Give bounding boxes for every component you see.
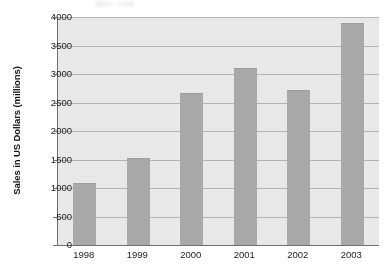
bars-group bbox=[58, 17, 379, 245]
bar-1999 bbox=[127, 158, 150, 245]
bar-chart-figure: Sales in US Dollars (millions) 050010001… bbox=[0, 0, 389, 268]
bar-2003 bbox=[341, 23, 364, 245]
plot-area bbox=[57, 17, 379, 246]
y-tick-mark-1000 bbox=[53, 188, 57, 189]
bar-1998 bbox=[73, 183, 96, 245]
y-tick-mark-0 bbox=[53, 245, 57, 246]
bar-2001 bbox=[234, 68, 257, 245]
y-tick-mark-2500 bbox=[53, 103, 57, 104]
y-axis-title: Sales in US Dollars (millions) bbox=[11, 31, 22, 231]
x-tick-label-2002: 2002 bbox=[271, 249, 325, 260]
y-tick-mark-4000 bbox=[53, 17, 57, 18]
y-tick-mark-3000 bbox=[53, 74, 57, 75]
y-tick-mark-3500 bbox=[53, 46, 57, 47]
y-tick-mark-500 bbox=[53, 217, 57, 218]
x-tick-label-1998: 1998 bbox=[57, 249, 111, 260]
x-tick-label-2003: 2003 bbox=[324, 249, 378, 260]
bar-2000 bbox=[180, 93, 203, 245]
x-tick-label-2001: 2001 bbox=[217, 249, 271, 260]
x-tick-label-1999: 1999 bbox=[110, 249, 164, 260]
bar-2002 bbox=[287, 90, 310, 245]
x-tick-label-2000: 2000 bbox=[164, 249, 218, 260]
y-tick-mark-2000 bbox=[53, 131, 57, 132]
scan-artifact bbox=[96, 1, 134, 7]
y-tick-mark-1500 bbox=[53, 160, 57, 161]
